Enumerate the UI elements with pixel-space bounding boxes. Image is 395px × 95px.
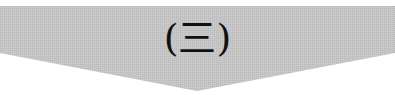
section-banner: (三): [0, 0, 395, 95]
section-number-label: (三): [0, 18, 395, 58]
